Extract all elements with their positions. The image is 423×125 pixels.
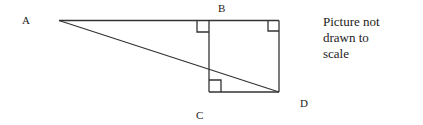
right-angle-marker-top-right [268,21,279,32]
label-B: B [218,3,225,14]
note-line: Picture not [323,14,403,30]
label-A: A [22,15,30,26]
label-C: C [196,110,203,121]
segment-AD [59,21,279,93]
right-angle-marker-B [197,21,209,33]
note-line: scale [323,46,403,62]
label-D: D [300,98,308,109]
scale-note: Picture not drawn to scale [323,14,403,62]
note-line: drawn to [323,30,403,46]
right-angle-marker-C [209,80,221,92]
